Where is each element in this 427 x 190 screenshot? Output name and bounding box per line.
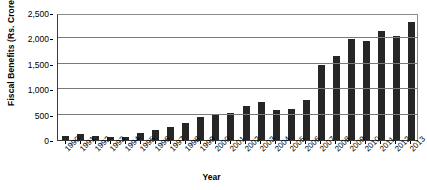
y-tick-label: 0 xyxy=(44,136,49,146)
bar xyxy=(243,106,250,140)
y-tick-mark xyxy=(50,65,53,66)
plot-area xyxy=(57,14,418,141)
bar xyxy=(408,22,415,140)
gridline xyxy=(58,37,417,38)
y-tick-mark xyxy=(50,141,53,142)
y-tick-mark xyxy=(50,14,53,15)
y-tick-label: 500 xyxy=(35,111,49,121)
bar xyxy=(303,100,310,140)
bar xyxy=(258,102,265,140)
bar xyxy=(363,41,370,140)
bar xyxy=(333,56,340,140)
gridline xyxy=(58,114,417,115)
y-tick-mark xyxy=(50,116,53,117)
bar-series xyxy=(58,15,417,140)
y-axis-ticks: 05001,0001,5002,0002,500 xyxy=(0,0,54,190)
y-tick-label: 1,500 xyxy=(28,60,49,70)
bar xyxy=(378,31,385,140)
gridline xyxy=(58,88,417,89)
y-tick-mark xyxy=(50,90,53,91)
y-tick-label: 1,000 xyxy=(28,85,49,95)
y-tick-label: 2,500 xyxy=(28,9,49,19)
y-tick-mark xyxy=(50,39,53,40)
y-tick-label: 2,000 xyxy=(28,34,49,44)
gridline xyxy=(58,63,417,64)
x-axis-ticks: 1990199119921993199419951996199719981999… xyxy=(57,141,418,175)
bar xyxy=(62,136,69,140)
bar xyxy=(227,113,234,140)
bar xyxy=(348,39,355,140)
bar xyxy=(318,65,325,140)
x-axis-title: Year xyxy=(0,172,423,182)
